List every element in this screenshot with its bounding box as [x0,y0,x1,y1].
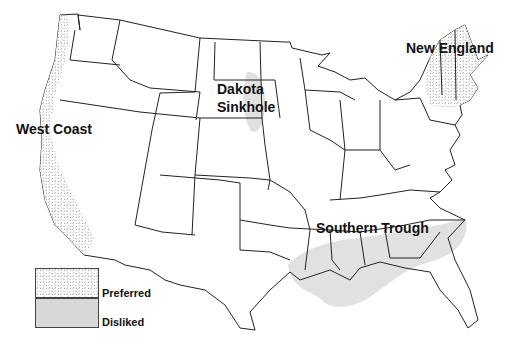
legend-label-preferred: Preferred [102,287,151,299]
label-new-england: New England [406,41,494,56]
label-west-coast: West Coast [16,122,92,137]
legend-swatch-disliked [35,298,99,328]
legend-swatch-preferred [35,268,99,298]
states [40,14,488,330]
label-southern-trough: Southern Trough [316,221,429,236]
us-outline [40,14,488,330]
label-dakota-line1: Dakota [217,82,264,97]
new-england-area [425,25,488,108]
legend-label-disliked: Disliked [102,316,144,328]
label-dakota-line2: Sinkhole [217,100,275,115]
